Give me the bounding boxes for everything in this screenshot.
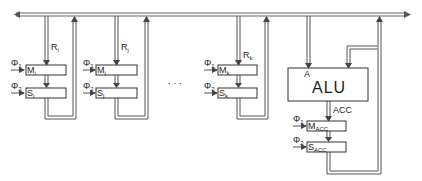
clock2-label-acc: Φ2 (293, 135, 304, 146)
bus-left-arrow-icon (14, 11, 20, 18)
register-group-j: Rj Mj Sj Φ1 Φ2 (83, 16, 150, 119)
register-group-k: Rk Mk Sk Φ1 Φ2 (204, 16, 270, 119)
line-label-ri: Ri (51, 42, 59, 53)
line-label-rj: Rj (121, 42, 129, 53)
clock2-label-k: Φ2 (204, 81, 215, 92)
clock1-label-acc: Φ1 (293, 114, 304, 125)
clock2-label-i: Φ2 (11, 81, 22, 92)
clock1-label-k: Φ1 (204, 58, 215, 69)
ellipsis: · · · (168, 78, 182, 88)
diagram-canvas: Ri Mi Si Φ1 Φ2 Rj Mj Sj Φ1 Φ2 · · · (0, 0, 422, 181)
clock1-label-i: Φ1 (11, 58, 22, 69)
alu-label: ALU (312, 79, 346, 96)
alu-input-a-label: A (304, 69, 310, 79)
bus-right-arrow-icon (404, 11, 411, 18)
acc-output-label: ACC (333, 105, 353, 115)
alu-section: A ALU ACC MACC SACC Φ1 Φ2 (288, 16, 383, 174)
register-group-i: Ri Mi Si Φ1 Φ2 (11, 16, 78, 119)
line-label-rk: Rk (243, 50, 254, 61)
clock1-label-j: Φ1 (83, 58, 94, 69)
data-bus (14, 11, 411, 18)
clock2-label-j: Φ2 (83, 81, 94, 92)
